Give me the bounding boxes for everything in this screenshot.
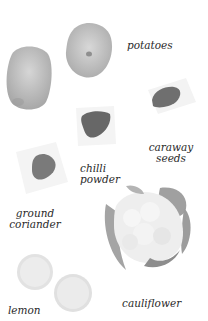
caraway-seeds-label: caraway seeds	[145, 142, 197, 164]
ground-coriander-label-line2: coriander	[4, 219, 66, 230]
potato-left-image	[4, 42, 54, 114]
lemon-slice-2-image	[52, 272, 94, 314]
ground-coriander-label: ground coriander	[4, 208, 66, 230]
ground-coriander-image	[14, 140, 70, 196]
potato-right-image	[63, 20, 115, 80]
cauliflower-image	[100, 184, 200, 278]
potatoes-label: potatoes	[127, 40, 173, 51]
caraway-seeds-image	[140, 76, 200, 116]
ingredients-illustration-page: potatoes caraway seeds chilli powder gro…	[0, 0, 208, 321]
lemon-slice-1-image	[15, 252, 55, 292]
caraway-seeds-label-line2: seeds	[145, 153, 197, 164]
chilli-powder-label: chilli powder	[80, 163, 120, 185]
cauliflower-label: cauliflower	[122, 298, 181, 309]
chilli-powder-image	[72, 104, 118, 148]
lemon-label: lemon	[8, 305, 41, 316]
